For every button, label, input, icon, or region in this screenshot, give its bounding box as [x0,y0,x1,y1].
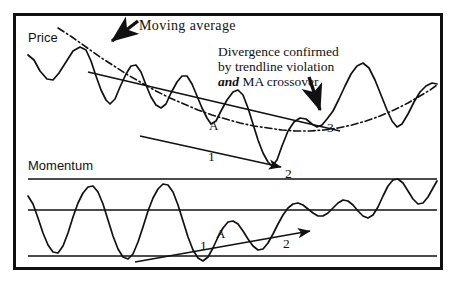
momentum-panel [28,179,437,262]
price-panel [28,21,437,167]
moving-average-pointer-arrow [112,21,138,41]
price-marker-1: 1 [208,149,215,165]
divergence-note-line-1: Divergence confirmed [218,44,339,59]
divergence-note-line-3-rest: MA crossover [239,74,319,89]
momentum-line [28,179,437,261]
divergence-note-line-3: and MA crossover [218,74,339,89]
momentum-axis-label: Momentum [28,158,93,173]
momentum-marker-2: 2 [283,236,290,252]
price-marker-a: A [209,118,218,134]
divergence-note-line-2: by trendline violation [218,59,339,74]
price-marker-2: 2 [285,166,292,182]
price-axis-label: Price [28,30,58,45]
divergence-note: Divergence confirmed by trendline violat… [218,44,339,89]
momentum-marker-1: 1 [200,238,207,254]
chart-svg [0,0,456,283]
moving-average-annotation: Moving average [139,18,236,34]
divergence-note-emphasis: and [218,74,239,89]
price-marker-3: 3 [327,120,334,136]
diagram-canvas: Price Momentum Moving average Divergence… [0,0,456,283]
momentum-marker-a: A [216,226,225,242]
